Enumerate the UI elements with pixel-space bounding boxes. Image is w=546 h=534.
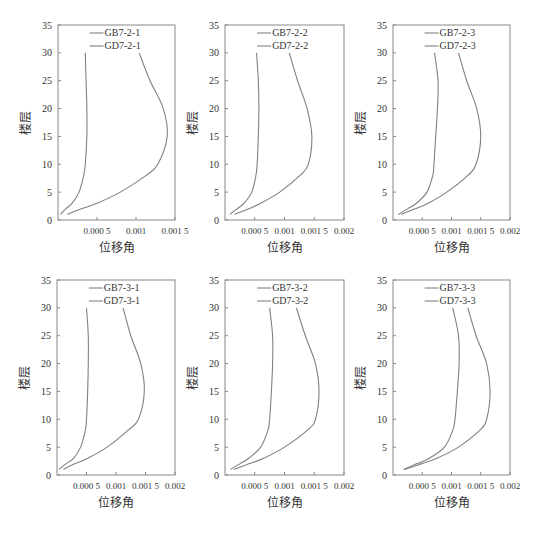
y-tick-label: 20 [42, 103, 52, 114]
series-line-gd7-3-1 [63, 308, 144, 470]
y-tick-label: 30 [41, 302, 51, 313]
y-tick-label: 0 [382, 470, 387, 481]
y-tick-label: 10 [377, 414, 387, 425]
y-tick-label: 30 [42, 47, 52, 58]
y-tick-label: 5 [47, 187, 52, 198]
series-line-gd7-3-3 [405, 308, 490, 470]
y-tick-label: 20 [209, 358, 219, 369]
figure-grid: 051015202530350.000 50.0010.001 5位移角楼层GB… [0, 0, 546, 534]
plot-frame [225, 280, 344, 475]
x-tick-label: 0.002 [500, 481, 520, 491]
x-axis-label: 位移角 [98, 495, 134, 510]
legend-label: GD7-2-1 [105, 40, 141, 51]
y-tick-label: 25 [377, 330, 387, 341]
y-tick-label: 10 [41, 414, 51, 425]
y-tick-label: 35 [209, 275, 219, 286]
y-tick-label: 25 [42, 75, 52, 86]
y-axis-label: 楼层 [18, 111, 33, 135]
plot-frame [58, 25, 175, 220]
series-line-gd7-2-3 [401, 53, 481, 215]
series-line-gb7-3-2 [230, 308, 273, 470]
y-tick-label: 20 [209, 103, 219, 114]
y-tick-label: 30 [209, 47, 219, 58]
y-tick-label: 25 [209, 330, 219, 341]
x-tick-label: 0.000 5 [84, 226, 112, 236]
series-line-gd7-2-2 [235, 53, 312, 215]
plot-frame [393, 280, 510, 475]
series-line-gb7-2-3 [398, 53, 438, 215]
series-line-gb7-3-1 [59, 308, 89, 470]
x-axis-label: 位移角 [267, 495, 303, 510]
y-tick-label: 0 [47, 215, 52, 226]
x-tick-label: 0.001 5 [132, 481, 160, 491]
y-tick-label: 5 [382, 187, 387, 198]
y-axis-label: 楼层 [185, 366, 200, 390]
chart-panel-5: 051015202530350.000 50.0010.001 50.002位移… [185, 275, 354, 511]
y-tick-label: 0 [214, 470, 219, 481]
y-tick-label: 35 [41, 275, 51, 286]
series-line-gd7-3-2 [234, 308, 319, 470]
y-tick-label: 0 [46, 470, 51, 481]
x-tick-label: 0.000 5 [409, 226, 437, 236]
chart-panel-1: 051015202530350.000 50.0010.001 5位移角楼层GB… [18, 20, 189, 256]
y-tick-label: 5 [382, 442, 387, 453]
y-axis-label: 楼层 [353, 366, 368, 390]
x-tick-label: 0.001 [274, 226, 294, 236]
y-axis-label: 楼层 [17, 366, 32, 390]
y-tick-label: 35 [42, 20, 52, 31]
chart-panel-6: 051015202530350.000 50.0010.001 50.002位移… [353, 275, 520, 511]
x-tick-label: 0.000 5 [241, 226, 269, 236]
x-tick-label: 0.001 [106, 481, 126, 491]
figure-svg: 051015202530350.000 50.0010.001 5位移角楼层GB… [0, 0, 546, 534]
y-tick-label: 15 [377, 386, 387, 397]
y-tick-label: 0 [382, 215, 387, 226]
y-tick-label: 25 [377, 75, 387, 86]
y-tick-label: 25 [209, 75, 219, 86]
y-tick-label: 10 [377, 159, 387, 170]
y-tick-label: 15 [377, 131, 387, 142]
chart-panel-3: 051015202530350.000 50.0010.001 50.002位移… [353, 20, 520, 256]
x-axis-label: 位移角 [267, 240, 303, 255]
y-tick-label: 15 [41, 386, 51, 397]
y-tick-label: 20 [41, 358, 51, 369]
x-tick-label: 0.001 [441, 481, 461, 491]
y-tick-label: 10 [42, 159, 52, 170]
plot-frame [225, 25, 344, 220]
chart-panel-4: 051015202530350.000 50.0010.001 50.002位移… [17, 275, 185, 511]
series-line-gb7-3-3 [404, 308, 460, 470]
x-tick-label: 0.002 [334, 481, 354, 491]
x-axis-label: 位移角 [434, 240, 470, 255]
plot-frame [57, 280, 175, 475]
x-tick-label: 0.001 5 [467, 481, 495, 491]
x-tick-label: 0.002 [334, 226, 354, 236]
y-axis-label: 楼层 [353, 111, 368, 135]
legend-label: GD7-3-3 [440, 295, 476, 306]
x-tick-label: 0.001 5 [162, 226, 190, 236]
y-tick-label: 5 [214, 187, 219, 198]
y-tick-label: 15 [209, 386, 219, 397]
legend-label: GB7-2-3 [440, 27, 476, 38]
x-axis-label: 位移角 [434, 495, 470, 510]
y-tick-label: 20 [377, 358, 387, 369]
x-tick-label: 0.001 [441, 226, 461, 236]
y-tick-label: 30 [377, 302, 387, 313]
y-tick-label: 15 [209, 131, 219, 142]
y-tick-label: 35 [377, 275, 387, 286]
y-tick-label: 0 [214, 215, 219, 226]
series-line-gb7-2-1 [60, 53, 87, 215]
y-tick-label: 10 [209, 159, 219, 170]
x-tick-label: 0.001 5 [301, 226, 329, 236]
x-tick-label: 0.001 [274, 481, 294, 491]
y-tick-label: 10 [209, 414, 219, 425]
series-line-gd7-2-1 [67, 53, 167, 215]
legend-label: GD7-2-2 [272, 40, 308, 51]
legend-label: GD7-3-2 [272, 295, 308, 306]
x-tick-label: 0.000 5 [73, 481, 101, 491]
y-tick-label: 5 [214, 442, 219, 453]
legend-label: GB7-2-2 [272, 27, 308, 38]
y-axis-label: 楼层 [185, 111, 200, 135]
y-tick-label: 30 [209, 302, 219, 313]
legend-label: GB7-3-1 [104, 282, 140, 293]
legend-label: GD7-3-1 [104, 295, 140, 306]
legend-label: GB7-2-1 [105, 27, 141, 38]
